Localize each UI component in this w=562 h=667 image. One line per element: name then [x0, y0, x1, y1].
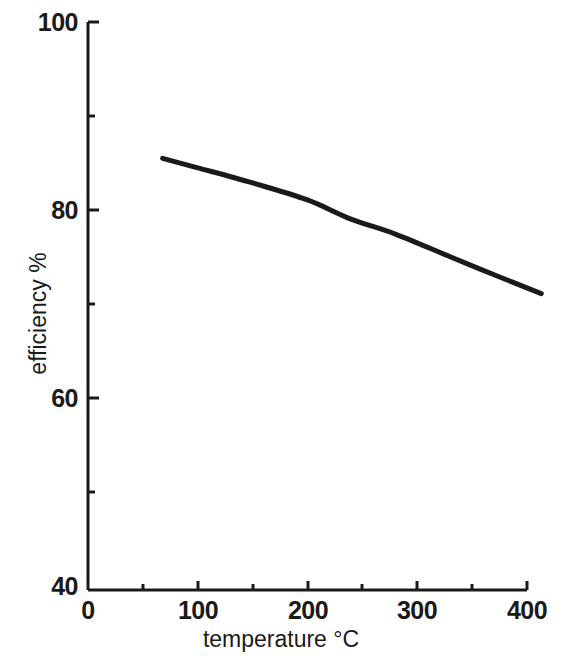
x-tick-label-100: 100 — [158, 596, 238, 625]
x-tick-label-200: 200 — [268, 596, 348, 625]
y-major-ticks — [88, 22, 99, 398]
chart-figure: 100 80 60 40 0 100 200 300 400 efficienc… — [0, 0, 562, 667]
x-tick-label-0: 0 — [68, 596, 108, 625]
efficiency-curve — [163, 158, 542, 293]
y-axis-title: efficiency % — [25, 214, 52, 414]
x-tick-label-300: 300 — [377, 596, 457, 625]
x-axis-title: temperature °C — [0, 626, 562, 653]
line-chart-plot — [0, 0, 562, 667]
y-tick-label-40: 40 — [0, 572, 78, 601]
y-tick-label-100: 100 — [0, 8, 78, 37]
x-tick-label-400: 400 — [487, 596, 562, 625]
